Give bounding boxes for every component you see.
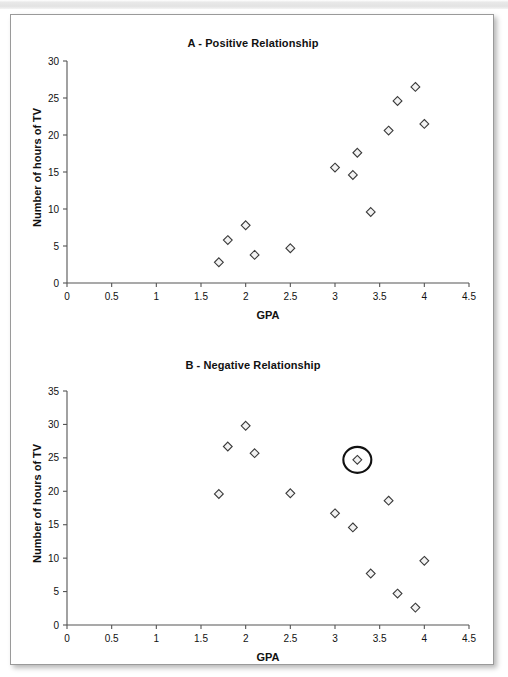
chart-b-x-tick-label: 4 bbox=[422, 633, 428, 644]
chart-a-x-tick-label: 2.5 bbox=[283, 291, 297, 302]
chart-b-x-tick-label: 3.5 bbox=[373, 633, 387, 644]
chart-b-x-tick-label: 0 bbox=[64, 633, 70, 644]
chart-a-y-tick-label: 20 bbox=[48, 130, 60, 141]
chart-b-y-tick-label: 15 bbox=[48, 519, 60, 530]
chart-b-y-tick-label: 35 bbox=[48, 386, 60, 397]
chart-b-x-tick-label: 0.5 bbox=[105, 633, 119, 644]
chart-b-plot-area: 0510152025303500.511.522.533.544.5 bbox=[11, 345, 495, 663]
chart-b-y-tick-label: 25 bbox=[48, 452, 60, 463]
scan-top-band bbox=[0, 0, 508, 9]
chart-a-data-point bbox=[366, 208, 375, 217]
chart-a-data-point bbox=[331, 163, 340, 172]
chart-a-data-point bbox=[411, 83, 420, 92]
chart-b-x-tick-label: 4.5 bbox=[462, 633, 476, 644]
chart-b-y-tick-label: 30 bbox=[48, 419, 60, 430]
chart-a-data-point bbox=[420, 120, 429, 129]
chart-b-data-point bbox=[214, 490, 223, 499]
chart-a-y-tick-label: 15 bbox=[48, 167, 60, 178]
chart-b-data-point bbox=[393, 589, 402, 598]
chart-a-x-tick-label: 0.5 bbox=[105, 291, 119, 302]
chart-b-data-point bbox=[366, 569, 375, 578]
chart-b-x-tick-label: 2 bbox=[243, 633, 249, 644]
chart-a-x-tick-label: 4 bbox=[422, 291, 428, 302]
chart-a-data-point bbox=[223, 236, 232, 245]
chart-a-data-point bbox=[250, 250, 259, 259]
chart-a-data-point bbox=[286, 244, 295, 253]
scatter-chart-a: A - Positive Relationship Number of hour… bbox=[11, 19, 495, 339]
chart-a-data-point bbox=[393, 97, 402, 106]
chart-a-y-tick-label: 0 bbox=[53, 278, 59, 289]
chart-a-x-tick-label: 4.5 bbox=[462, 291, 476, 302]
page-root: A - Positive Relationship Number of hour… bbox=[0, 0, 508, 677]
chart-a-y-tick-label: 30 bbox=[48, 56, 60, 67]
chart-b-data-point bbox=[348, 523, 357, 532]
chart-b-x-tick-label: 1.5 bbox=[194, 633, 208, 644]
chart-b-data-point bbox=[353, 455, 362, 464]
chart-b-y-tick-label: 10 bbox=[48, 553, 60, 564]
chart-a-data-point bbox=[384, 126, 393, 135]
chart-a-data-point bbox=[348, 171, 357, 180]
chart-a-data-point bbox=[241, 221, 250, 230]
chart-a-x-tick-label: 3 bbox=[332, 291, 338, 302]
chart-a-data-point bbox=[214, 258, 223, 267]
chart-a-data-point bbox=[353, 148, 362, 157]
scatter-chart-b: B - Negative Relationship Number of hour… bbox=[11, 345, 495, 663]
chart-b-data-point bbox=[331, 509, 340, 518]
chart-b-y-tick-label: 5 bbox=[53, 586, 59, 597]
chart-b-data-point bbox=[420, 556, 429, 565]
chart-b-x-tick-label: 3 bbox=[332, 633, 338, 644]
chart-a-y-tick-label: 10 bbox=[48, 204, 60, 215]
chart-b-data-point bbox=[384, 496, 393, 505]
chart-a-y-tick-label: 25 bbox=[48, 93, 60, 104]
chart-b-data-point bbox=[411, 603, 420, 612]
chart-b-data-point bbox=[241, 421, 250, 430]
chart-b-x-tick-label: 1 bbox=[154, 633, 160, 644]
chart-b-data-point bbox=[250, 449, 259, 458]
chart-a-x-tick-label: 2 bbox=[243, 291, 249, 302]
chart-a-x-tick-label: 0 bbox=[64, 291, 70, 302]
chart-b-data-point bbox=[286, 489, 295, 498]
figure-card: A - Positive Relationship Number of hour… bbox=[10, 14, 494, 665]
chart-b-y-tick-label: 0 bbox=[53, 620, 59, 631]
chart-b-data-point bbox=[223, 442, 232, 451]
chart-a-x-tick-label: 1 bbox=[154, 291, 160, 302]
chart-a-plot-area: 05101520253000.511.522.533.544.5 bbox=[11, 19, 495, 339]
chart-a-y-tick-label: 5 bbox=[53, 241, 59, 252]
chart-b-x-tick-label: 2.5 bbox=[283, 633, 297, 644]
chart-a-x-tick-label: 3.5 bbox=[373, 291, 387, 302]
chart-b-y-tick-label: 20 bbox=[48, 486, 60, 497]
chart-a-x-tick-label: 1.5 bbox=[194, 291, 208, 302]
